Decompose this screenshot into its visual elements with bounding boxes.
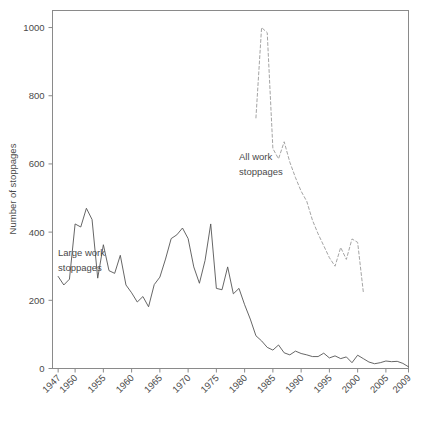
y-tick-label: 1000	[23, 22, 44, 33]
work-stoppages-line-chart: 02004006008001000 1947195019551960196519…	[0, 0, 423, 422]
y-tick-label: 200	[29, 295, 45, 306]
annotation-all-line2: stoppages	[239, 166, 283, 177]
annotation-large-line1: Large work	[58, 247, 105, 258]
y-tick-label: 800	[29, 90, 45, 101]
annotation-large-line2: stoppages	[58, 262, 102, 273]
chart-figure: 02004006008001000 1947195019551960196519…	[0, 0, 423, 422]
y-tick-label: 600	[29, 158, 45, 169]
annotation-all-line1: All work	[239, 151, 273, 162]
chart-background	[0, 0, 423, 422]
y-axis-title: Number of stoppages	[7, 143, 18, 234]
y-tick-label: 0	[39, 363, 44, 374]
y-tick-label: 400	[29, 227, 45, 238]
